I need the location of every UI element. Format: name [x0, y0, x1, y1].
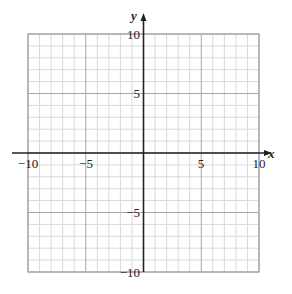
y-tick-label: 5 — [134, 86, 141, 101]
x-axis-label: x — [267, 146, 275, 161]
coordinate-plane: x y −10 −5 5 10 10 5 −5 −10 — [0, 0, 292, 294]
x-tick-label: −10 — [18, 156, 38, 171]
x-tick-label: 10 — [253, 156, 266, 171]
y-tick-label: −10 — [120, 265, 140, 280]
y-axis-arrow-icon — [141, 13, 147, 21]
y-axis-label: y — [129, 8, 137, 23]
y-tick-label: 10 — [127, 27, 140, 42]
x-tick-label: 5 — [198, 156, 205, 171]
y-tick-label: −5 — [126, 205, 140, 220]
x-tick-label: −5 — [79, 156, 93, 171]
